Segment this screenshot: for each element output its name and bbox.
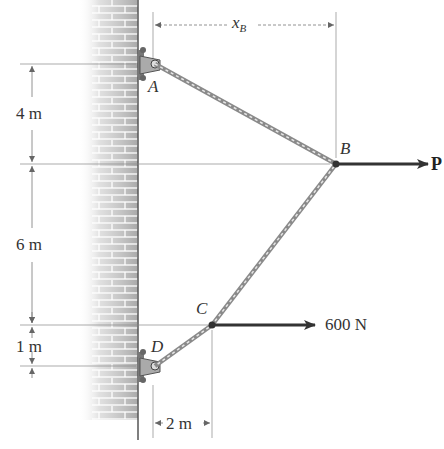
cable-statics-diagram <box>0 0 444 449</box>
point-label-c: C <box>196 300 207 317</box>
brick-wall <box>78 0 138 440</box>
force-label-600n: 600 N <box>325 316 367 333</box>
dimension-label-2m: 2 m <box>166 415 192 432</box>
point-label-a: A <box>148 78 158 95</box>
dimension-label-1m: 1 m <box>16 338 42 355</box>
point-label-b: B <box>340 140 350 157</box>
dimension-label-4m: 4 m <box>16 105 42 122</box>
cables <box>155 64 336 366</box>
xb-dimension-label: xB <box>232 14 246 34</box>
force-label-p: P <box>431 155 442 173</box>
xb-symbol: x <box>232 13 240 32</box>
dimension-label-6m: 6 m <box>16 236 42 253</box>
xb-subscript: B <box>240 22 247 34</box>
point-label-d: D <box>151 338 163 355</box>
